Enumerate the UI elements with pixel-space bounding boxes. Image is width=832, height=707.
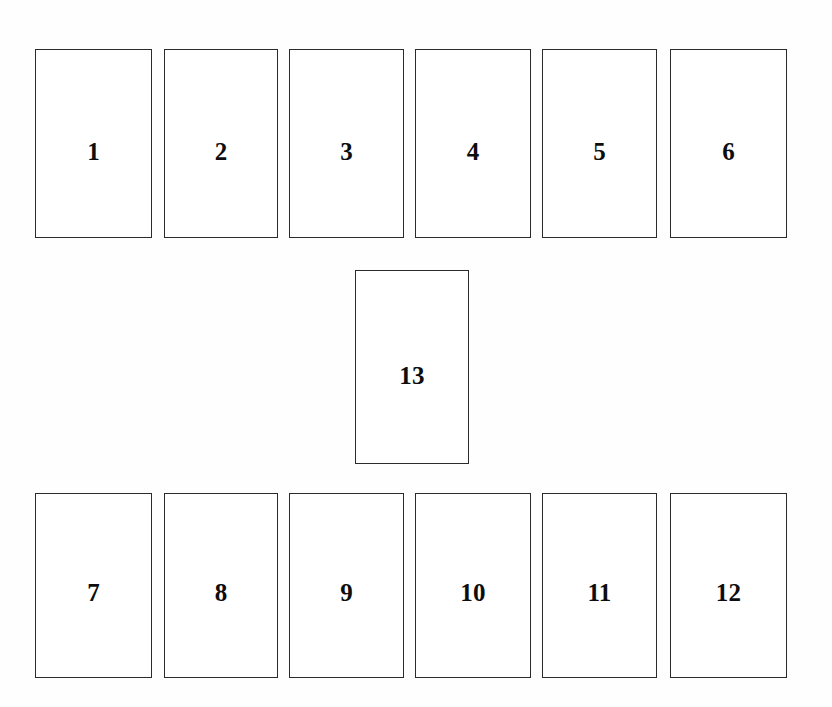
card-12[interactable]: 12: [670, 493, 787, 678]
card-7[interactable]: 7: [35, 493, 152, 678]
card-label: 1: [36, 139, 151, 164]
card-label: 9: [290, 580, 403, 605]
card-label: 7: [36, 580, 151, 605]
card-label: 11: [543, 580, 656, 605]
card-label: 2: [165, 139, 277, 164]
card-10[interactable]: 10: [415, 493, 531, 678]
card-label: 4: [416, 139, 530, 164]
card-label: 8: [165, 580, 277, 605]
card-label: 5: [543, 139, 656, 164]
card-5[interactable]: 5: [542, 49, 657, 238]
card-label: 13: [356, 363, 468, 388]
card-8[interactable]: 8: [164, 493, 278, 678]
card-6[interactable]: 6: [670, 49, 787, 238]
card-11[interactable]: 11: [542, 493, 657, 678]
card-4[interactable]: 4: [415, 49, 531, 238]
card-2[interactable]: 2: [164, 49, 278, 238]
card-label: 6: [671, 139, 786, 164]
card-13[interactable]: 13: [355, 270, 469, 464]
card-3[interactable]: 3: [289, 49, 404, 238]
card-label: 3: [290, 139, 403, 164]
diagram-canvas: 1 2 3 4 5 6 13 7 8 9 10: [0, 0, 832, 707]
card-label: 12: [671, 580, 786, 605]
card-label: 10: [416, 580, 530, 605]
card-9[interactable]: 9: [289, 493, 404, 678]
card-1[interactable]: 1: [35, 49, 152, 238]
